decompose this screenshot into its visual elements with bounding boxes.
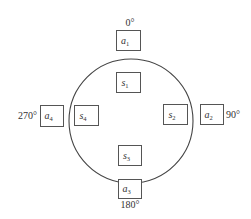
outer-node-a4: a4270° [18, 106, 64, 127]
inner-node-s2: s2 [164, 105, 188, 125]
inner-node-s1: s1 [117, 73, 141, 93]
inner-node-s4: s4 [75, 106, 99, 126]
angle-label: 180° [121, 199, 140, 210]
inner-nodes: s1s2s3s4 [75, 73, 188, 166]
outer-nodes: a10°a290°a3180°a4270° [18, 17, 240, 210]
angle-label: 270° [18, 110, 37, 121]
circular-diagram: s1s2s3s4 a10°a290°a3180°a4270° [0, 0, 251, 219]
inner-node-s3: s3 [119, 146, 142, 166]
outer-node-a3: a3180° [119, 180, 142, 211]
outer-node-a2: a290° [201, 105, 241, 125]
outer-node-a1: a10° [117, 17, 141, 51]
angle-label: 0° [126, 17, 135, 28]
angle-label: 90° [226, 109, 240, 120]
